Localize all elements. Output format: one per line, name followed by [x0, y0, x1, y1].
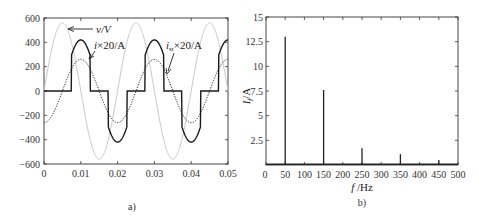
- y-tick-label: −200: [19, 110, 40, 121]
- x-tick-label: 350: [393, 169, 408, 180]
- annotation-v: v/V: [68, 23, 112, 35]
- x-tick-label: 300: [374, 169, 389, 180]
- x-tick-label: 450: [431, 169, 446, 180]
- y-tick-label: 400: [25, 37, 40, 48]
- x-tick-label: 0.02: [109, 168, 127, 179]
- y-tick-label: 10: [253, 61, 263, 72]
- x-tick-label: 0: [42, 168, 47, 179]
- label-v: v/V: [96, 23, 112, 35]
- y-tick-label: 15: [253, 12, 263, 23]
- x-tick-label: 100: [297, 169, 312, 180]
- x-tick-label: 0.03: [146, 168, 164, 179]
- caption-a: a): [128, 201, 136, 213]
- series-i: [44, 40, 228, 142]
- arrow-ist-icon: [168, 53, 174, 71]
- plot-b-bars: [266, 37, 458, 165]
- x-tick-label: 250: [355, 169, 370, 180]
- x-tick-label: 0.05: [219, 168, 237, 179]
- y-tick-label: 2.5: [251, 135, 264, 146]
- plot-b-frame: [266, 17, 458, 165]
- y-tick-label: 12.5: [246, 36, 264, 47]
- y-tick-label: 5: [258, 110, 263, 121]
- x-tick-label: 400: [412, 169, 427, 180]
- label-ist-suffix: ×20/A: [174, 39, 202, 51]
- ylabel-unit: /A: [240, 88, 252, 99]
- y-tick-label: −400: [19, 134, 40, 145]
- plot-b-x-ticks: 050100150200250300350400450500: [263, 17, 466, 180]
- y-tick-label: 600: [25, 13, 40, 24]
- xlabel-unit: /Hz: [354, 181, 373, 193]
- x-axis-label-b: f /Hz: [351, 181, 373, 193]
- panel-a: 6004002000−200−400−600 00.010.020.030.04…: [19, 13, 236, 214]
- x-tick-label: 0: [263, 169, 268, 180]
- y-tick-label: 200: [25, 61, 40, 72]
- plot-a-x-ticks: 00.010.020.030.040.05: [42, 18, 237, 179]
- caption-b: b): [358, 197, 366, 209]
- x-tick-label: 50: [280, 169, 290, 180]
- plot-b-y-ticks: 1512.5107.552.5: [246, 12, 459, 146]
- label-i: i×20/A: [94, 39, 125, 51]
- x-tick-label: 0.04: [182, 168, 200, 179]
- x-tick-label: 0.01: [72, 168, 90, 179]
- label-i-suffix: ×20/A: [97, 39, 125, 51]
- annotation-ist: ist×20/A: [166, 39, 202, 74]
- y-tick-label: −600: [19, 159, 40, 170]
- label-ist: ist×20/A: [166, 39, 202, 53]
- x-tick-label: 150: [316, 169, 331, 180]
- x-tick-label: 500: [451, 169, 466, 180]
- y-tick-label: 7.5: [251, 86, 264, 97]
- x-tick-label: 200: [335, 169, 350, 180]
- figure: 6004002000−200−400−600 00.010.020.030.04…: [0, 0, 479, 222]
- y-tick-label: 0: [35, 86, 40, 97]
- annotation-i: i×20/A: [89, 39, 125, 59]
- panel-b: 1512.5107.552.5 050100150200250300350400…: [240, 12, 466, 210]
- y-axis-label-b: If/A: [240, 88, 254, 106]
